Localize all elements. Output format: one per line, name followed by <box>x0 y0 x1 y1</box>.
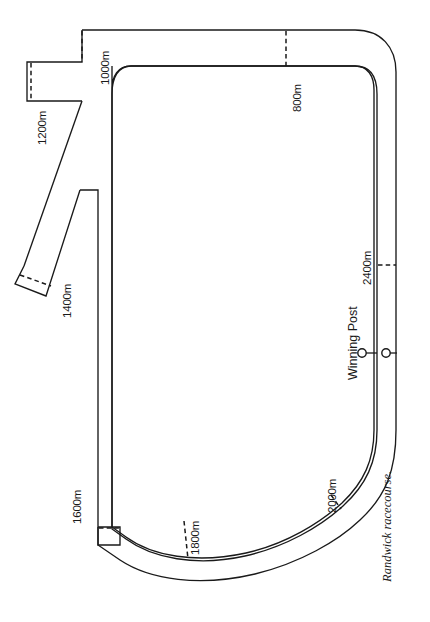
marker-line-1400m <box>20 275 51 286</box>
figure-caption: Randwick racecourse. <box>381 471 394 582</box>
chute-1200-lower-edge <box>24 101 82 266</box>
winning-post-marker-outer <box>382 349 390 357</box>
label-1200m: 1200m <box>37 111 49 145</box>
chute-1400-outline <box>15 190 80 296</box>
label-1400m: 1400m <box>62 284 74 318</box>
winning-post-label: Winning Post <box>347 306 360 380</box>
label-800m: 800m <box>292 84 304 112</box>
racecourse-figure: 1000m 1200m 1400m 1600m 1800m 2000m 800m… <box>0 0 430 622</box>
chute-1400-inner-edge <box>80 190 98 527</box>
label-1600m: 1600m <box>72 490 84 524</box>
label-1000m: 1000m <box>100 51 112 85</box>
label-2400m: 2400m <box>362 251 374 285</box>
chute-1000-1200-outline <box>27 30 82 101</box>
marker-line-1800m <box>184 521 188 559</box>
label-2000m: 2000m <box>327 479 339 513</box>
label-1800m: 1800m <box>190 521 202 555</box>
